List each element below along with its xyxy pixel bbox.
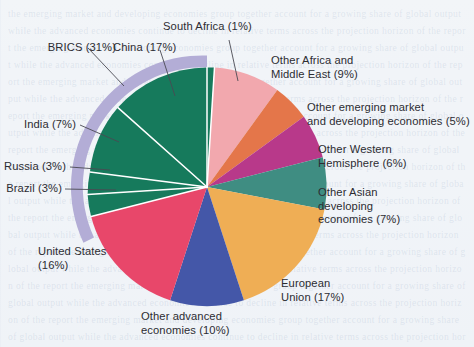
label-other-emerging-market: Other emerging market and developing eco… (307, 101, 471, 128)
label-china: China (17%) (113, 41, 203, 55)
label-brics: BRICS (31%) (6, 41, 116, 55)
label-other-asian-developing: Other Asian developing economies (7%) (318, 186, 438, 227)
label-european-union: European Union (17%) (281, 277, 391, 304)
label-other-advanced-economies: Other advanced economies (10%) (141, 310, 281, 337)
label-south-africa: South Africa (1%) (163, 20, 283, 34)
label-brazil: Brazil (3%) (0, 182, 62, 196)
label-india: India (7%) (6, 118, 76, 132)
label-united-states: United States (16%) (38, 245, 148, 272)
pie-chart-figure: BRICS (31%) China (17%) South Africa (1%… (0, 0, 474, 347)
label-other-africa-middle-east: Other Africa and Middle East (9%) (271, 54, 401, 81)
label-russia: Russia (3%) (0, 160, 66, 174)
label-other-western-hemisphere: Other Western Hemisphere (6%) (318, 143, 448, 170)
